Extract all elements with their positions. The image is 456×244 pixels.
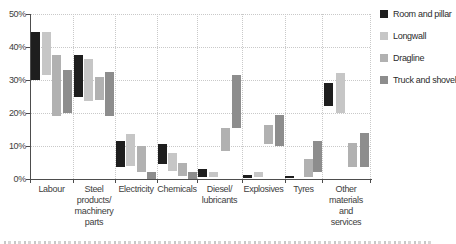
y-axis-tick [26,47,30,48]
range-bar-room-and-pillar [116,141,125,167]
legend-swatch-icon [380,10,388,18]
y-tick-label: 40% [2,43,26,52]
range-bar-truck-and-shovel [232,75,241,128]
range-bar-dragline [264,125,273,145]
gridline-horizontal [30,14,370,15]
range-bar-truck-and-shovel [313,141,322,172]
legend-label: Truck and shovel [393,75,456,85]
y-tick-label: 10% [2,142,26,151]
range-bar-truck-and-shovel [188,172,197,179]
x-axis-tick [73,180,74,183]
gridline-vertical [370,14,371,179]
x-axis-tick [197,180,198,183]
range-bar-longwall [84,59,93,102]
x-axis-tick [157,180,158,183]
range-bar-longwall [336,73,345,113]
range-bar-dragline [221,128,230,151]
range-bar-longwall [126,134,135,165]
range-bar-longwall [254,172,263,177]
range-bar-dragline [348,143,357,168]
y-tick-label: 0% [2,175,26,184]
y-tick-label: 20% [2,109,26,118]
x-axis-tick [115,180,116,183]
range-bar-dragline [52,55,61,116]
legend-swatch-icon [380,32,388,40]
gridline-horizontal [30,47,370,48]
range-bar-dragline [137,146,146,172]
x-axis-tick [322,180,323,183]
x-axis-tick [370,180,371,183]
x-axis-tick [242,180,243,183]
range-bar-truck-and-shovel [147,172,156,179]
x-category-label: Other materials and services [316,184,376,228]
range-bar-room-and-pillar [243,175,252,178]
legend-swatch-icon [380,76,388,84]
range-bar-room-and-pillar [158,144,167,164]
range-bar-room-and-pillar [198,169,207,177]
y-tick-label: 50% [2,10,26,19]
y-tick-label: 30% [2,76,26,85]
legend-item: Room and pillar [380,8,452,20]
range-bar-truck-and-shovel [63,70,72,113]
y-axis-tick [26,80,30,81]
legend-label: Longwall [393,31,426,41]
range-bar-truck-and-shovel [105,72,114,117]
range-bar-longwall [42,32,51,75]
legend-item: Dragline [380,52,424,64]
range-bar-room-and-pillar [31,32,40,80]
range-bar-room-and-pillar [324,83,333,106]
x-axis-tick [285,180,286,183]
range-bar-longwall [209,172,218,177]
x-axis-line [28,179,372,180]
range-bar-room-and-pillar [74,55,83,96]
x-axis-tick [30,180,31,183]
gridline-vertical [197,14,198,179]
legend-label: Room and pillar [393,9,452,19]
y-axis-tick [26,14,30,15]
range-bar-truck-and-shovel [360,133,369,168]
legend-swatch-icon [380,54,388,62]
range-bar-dragline [178,163,187,176]
gridline-horizontal [30,113,370,114]
gridline-vertical [242,14,243,179]
y-axis-tick [26,146,30,147]
range-bar-longwall [168,153,177,171]
range-bar-room-and-pillar [285,176,294,179]
range-bar-dragline [304,159,313,177]
legend-item: Longwall [380,30,426,42]
range-bar-chart: Room and pillarLongwallDraglineTruck and… [0,0,456,244]
legend-label: Dragline [393,53,424,63]
gridline-vertical [73,14,74,179]
range-bar-truck-and-shovel [275,115,284,146]
range-bar-dragline [95,77,104,100]
y-axis-tick [26,113,30,114]
legend-item: Truck and shovel [380,74,456,86]
gridline-vertical [285,14,286,179]
